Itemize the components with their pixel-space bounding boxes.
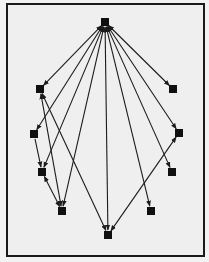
node-b [104, 231, 112, 239]
node-l3 [38, 168, 46, 176]
node-t [101, 18, 109, 26]
node-l1 [36, 85, 44, 93]
node-r2 [175, 129, 183, 137]
node-l4 [58, 207, 66, 215]
graph-canvas [0, 0, 209, 262]
node-r1 [169, 85, 177, 93]
node-r3 [168, 168, 176, 176]
node-l2 [30, 130, 38, 138]
node-r4 [147, 207, 155, 215]
